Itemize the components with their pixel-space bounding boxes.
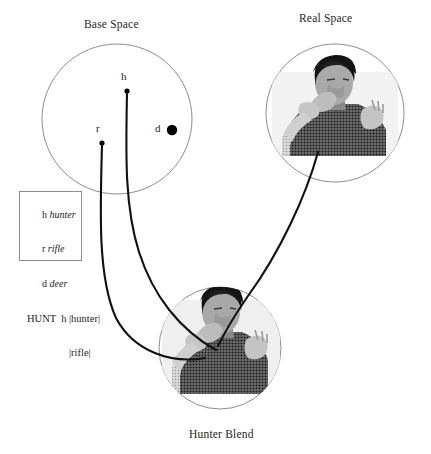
node-label-h: h: [121, 70, 127, 82]
real-space-title: Real Space: [299, 12, 352, 24]
legend-box: h hunter r rifle d deer HUNT h: [19, 191, 82, 261]
blend-space-caption: Hunter Blend: [189, 428, 254, 440]
legend-row-d: d deer: [27, 266, 81, 301]
legend-frame-row: HUNT h: [27, 313, 81, 324]
legend-gloss-d: deer: [50, 278, 68, 289]
blend-space-circle: [159, 284, 281, 409]
node-label-d: d: [155, 122, 161, 134]
node-dot-d: [167, 125, 177, 135]
node-label-r: r: [96, 122, 100, 134]
base-space-title: Base Space: [84, 18, 139, 30]
real-space-circle: [266, 44, 404, 182]
legend-row-r: r rifle: [27, 232, 81, 267]
legend-gloss-r: rifle: [48, 243, 65, 254]
rifle-magnitude-label: |rifle|: [69, 347, 91, 358]
base-space-circle: [42, 44, 192, 194]
legend-row-h: h hunter: [27, 197, 81, 232]
legend-gloss-h: hunter: [50, 209, 76, 220]
figure-canvas: Base Space Real Space h r d |hunter| |ri…: [0, 0, 431, 454]
